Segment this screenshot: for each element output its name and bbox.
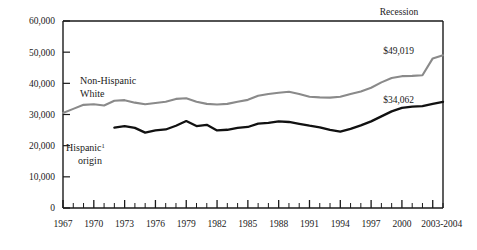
x-axis-tick-label: 1988	[269, 219, 288, 229]
series-label-hispanic-origin: Hispanic1	[66, 142, 105, 154]
x-axis-tick-label: 1991	[300, 219, 319, 229]
x-axis-tick-label: 1976	[146, 219, 165, 229]
x-axis-tick-label: 2003-2004	[421, 219, 462, 229]
y-axis-tick-labels: 60,00050,00040,00030,00020,00010,0000	[29, 16, 55, 213]
x-axis-tick-label: 1967	[54, 219, 73, 229]
x-axis-tick-label: 1997	[362, 219, 381, 229]
x-axis-tick-label: 1973	[115, 219, 134, 229]
y-axis-tick-label: 40,000	[29, 79, 55, 89]
x-axis-tick-label: 1982	[208, 219, 227, 229]
series-label-non-hispanic-white: Non-Hispanic	[80, 75, 137, 86]
x-axis-tick-labels: 1967197019731976197919821985198819911994…	[54, 219, 463, 229]
y-axis-tick-label: 0	[50, 203, 55, 213]
y-axis-tick-label: 20,000	[29, 141, 55, 151]
x-axis-tick-label: 1979	[177, 219, 196, 229]
y-axis-tick-label: 30,000	[29, 110, 55, 120]
y-axis-tick-label: 60,000	[29, 16, 55, 26]
x-axis-tick-label: 1985	[238, 219, 257, 229]
series-label-hispanic-origin-line2: origin	[78, 155, 102, 166]
recession-label: Recession	[380, 7, 419, 17]
y-axis-tick-label: 10,000	[29, 172, 55, 182]
x-axis-tick-label: 1970	[84, 219, 103, 229]
end-value-label-hispanic-origin: $34,062	[383, 95, 414, 105]
x-axis-tick-label: 1994	[331, 219, 350, 229]
y-axis-ticks	[63, 21, 70, 208]
chart-canvas: 60,00050,00040,00030,00020,00010,0000 19…	[0, 0, 477, 250]
x-axis-ticks	[63, 200, 443, 208]
series-lines	[63, 55, 443, 132]
end-value-label-non-hispanic-white: $49,019	[383, 46, 414, 56]
series-line-hispanic-origin	[114, 102, 443, 133]
y-axis-tick-label: 50,000	[29, 48, 55, 58]
income-line-chart-figure: 60,00050,00040,00030,00020,00010,0000 19…	[0, 0, 477, 250]
x-axis-tick-label: 2000	[392, 219, 411, 229]
series-label-non-hispanic-white-line2: White	[80, 88, 105, 99]
